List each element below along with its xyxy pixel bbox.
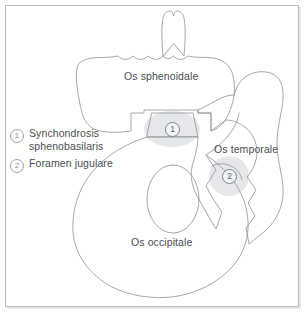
bone-label-os-sphenoidale: Os sphenoidale: [124, 70, 198, 82]
legend-label-1: Synchondrosis sphenobasilaris: [29, 127, 103, 152]
legend-marker-1-icon: 1: [10, 129, 24, 143]
legend-label-1-line1: Synchondrosis: [29, 127, 103, 140]
legend-item-1: 1 Synchondrosis sphenobasilaris: [10, 127, 160, 152]
legend-item-2: 2 Foramen jugulare: [10, 157, 160, 173]
legend-label-2-line1: Foramen jugulare: [29, 157, 113, 170]
legend-marker-2-icon: 2: [10, 159, 24, 173]
bone-label-os-occipitale: Os occipitale: [131, 236, 192, 248]
legend: 1 Synchondrosis sphenobasilaris 2 Forame…: [10, 127, 160, 178]
diagram-marker-2[interactable]: 2: [222, 169, 237, 184]
legend-label-1-line2: sphenobasilaris: [29, 140, 103, 153]
anatomy-figure: 1 2 Os sphenoidale Os temporale Os occip…: [0, 0, 305, 313]
diagram-marker-1[interactable]: 1: [165, 122, 180, 137]
legend-label-2: Foramen jugulare: [29, 157, 113, 170]
bone-label-os-temporale: Os temporale: [214, 143, 278, 155]
vomer-outline: [162, 11, 185, 56]
